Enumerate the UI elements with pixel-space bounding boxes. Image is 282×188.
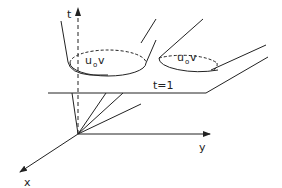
y-axis: y [78, 134, 210, 154]
x-axis-label: x [24, 176, 31, 188]
plane-label: t=1 [153, 79, 174, 92]
left-cone-label-v: v [98, 54, 105, 67]
t-axis-arrow-icon [75, 7, 81, 16]
right-cone: u o v [141, 19, 266, 72]
t-axis-label: t [67, 8, 72, 21]
right-cone-label-u: u [177, 51, 184, 64]
left-cone: u o v [61, 21, 156, 76]
y-axis-label: y [199, 141, 206, 154]
cone-diagram: t x y t=1 u o v [0, 0, 282, 188]
plane-t1: t=1 [48, 57, 268, 93]
right-cone-label-v: v [190, 51, 197, 64]
right-cone-label-sub: o [185, 58, 189, 66]
left-cone-label-u: u [85, 54, 92, 67]
x-axis: x [20, 134, 78, 188]
left-cone-label-sub: o [93, 61, 97, 69]
rays [72, 93, 141, 134]
